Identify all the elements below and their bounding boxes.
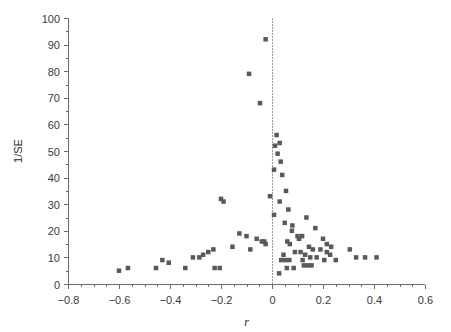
data-point-marker [160,258,165,263]
x-axis-tick-label: 0.4 [367,294,382,306]
y-axis-tick-label: 20 [48,225,60,237]
y-axis-tick-label: 50 [48,146,60,158]
y-axis-title: 1/SE [12,139,24,163]
data-points-group [117,37,379,276]
data-point-marker [117,268,122,273]
data-point-marker [348,247,353,252]
x-axis-tick-label: −0.6 [109,294,131,306]
data-point-marker [363,255,368,260]
data-point-marker [221,199,226,204]
y-axis-tick-label: 90 [48,39,60,51]
x-axis-tick-label: 0.6 [418,294,433,306]
data-point-marker [154,266,159,271]
data-point-marker [126,266,130,271]
data-point-marker [258,101,263,106]
y-axis-tick-label: 70 [48,92,60,104]
data-point-marker [287,258,292,263]
data-point-marker [305,263,310,268]
data-point-marker [280,173,285,178]
data-point-marker [268,194,273,199]
data-point-marker [237,231,242,236]
y-axis-tick-label: 0 [54,279,60,291]
data-point-marker [290,229,295,234]
scatter-plot-canvas: 0102030405060708090100−0.8−0.6−0.4−0.200… [0,0,451,332]
data-point-marker [277,271,282,276]
y-axis-tick-label: 40 [48,172,60,184]
data-point-marker [273,143,278,148]
data-point-marker [254,237,259,242]
data-point-marker [212,266,217,271]
data-point-marker [230,245,235,250]
data-point-marker [272,213,277,218]
y-axis-tick-label: 100 [42,13,60,25]
data-point-marker [354,255,359,260]
data-point-marker [283,258,288,263]
y-axis-tick-label: 10 [48,252,60,264]
data-point-marker [274,133,279,138]
y-axis-tick-label: 80 [48,66,60,78]
data-point-marker [247,72,252,77]
x-axis-tick-label: −0.8 [58,294,80,306]
data-point-marker [191,255,196,260]
data-point-marker [286,207,291,212]
data-point-marker [285,266,290,271]
x-axis-title: r [244,315,249,329]
data-point-marker [374,255,379,260]
y-axis-tick-label: 60 [48,119,60,131]
data-point-marker [244,234,249,239]
data-point-marker [248,247,253,252]
data-point-marker [309,263,314,268]
data-point-marker [314,255,319,260]
x-axis-tick-label: −0.2 [211,294,233,306]
data-point-marker [278,159,283,164]
data-point-marker [313,226,318,231]
data-point-marker [290,223,295,228]
data-point-marker [308,255,313,260]
data-point-marker [291,266,296,271]
data-point-marker [183,266,188,271]
data-point-marker [328,252,333,256]
data-point-marker [281,252,286,256]
data-point-marker [166,260,171,265]
axes-group [64,18,426,289]
data-point-marker [329,245,334,250]
data-point-marker [277,141,282,146]
funnel-plot-figure: 0102030405060708090100−0.8−0.6−0.4−0.200… [0,0,451,332]
data-point-marker [298,250,303,255]
data-point-marker [318,247,323,252]
axis-labels-group: 0102030405060708090100−0.8−0.6−0.4−0.200… [12,13,433,330]
data-point-marker [325,242,330,247]
data-point-marker [283,221,288,226]
data-point-marker [275,151,280,156]
data-point-marker [279,258,284,263]
data-point-marker [304,215,309,220]
data-point-marker [334,258,339,263]
data-point-marker [263,37,268,42]
data-point-marker [206,250,211,255]
x-axis-tick-label: −0.4 [160,294,182,306]
y-axis-tick-label: 30 [48,199,60,211]
data-point-marker [311,247,316,252]
data-point-marker [288,242,293,247]
data-point-marker [303,252,308,256]
data-point-marker [284,189,289,194]
data-point-marker [322,258,327,263]
data-point-marker [293,250,298,255]
data-point-marker [300,258,305,263]
data-point-marker [217,266,222,271]
data-point-marker [211,247,216,252]
x-axis-tick-label: 0.2 [316,294,331,306]
data-point-marker [297,237,302,242]
data-point-marker [272,167,277,172]
data-point-marker [263,242,268,247]
data-point-marker [197,255,202,260]
x-axis-tick-label: 0 [269,294,275,306]
data-point-marker [321,237,326,242]
data-point-marker [277,199,282,204]
